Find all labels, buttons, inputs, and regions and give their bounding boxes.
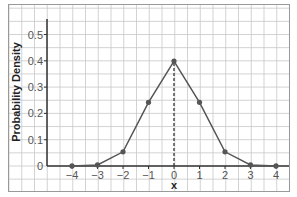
y-tick-label: 0 [37, 160, 43, 172]
data-point [197, 100, 202, 105]
data-point [95, 162, 100, 167]
x-tick-label: −2 [117, 169, 130, 181]
data-point [222, 149, 227, 154]
data-point [273, 163, 278, 168]
x-tick-label: 3 [247, 169, 253, 181]
x-tick-label: 1 [196, 169, 202, 181]
y-tick-label: 0.5 [28, 29, 43, 41]
x-axis-title: x [171, 179, 178, 191]
x-tick-label: −4 [66, 169, 79, 181]
chart: 00.10.20.30.40.5 −4−3−2−101234 Probabili… [0, 0, 297, 197]
y-axis-title: Probability Density [10, 41, 22, 142]
data-point [146, 100, 151, 105]
x-tick-label: −3 [91, 169, 104, 181]
x-tick-label: −1 [142, 169, 155, 181]
y-tick-label: 0.4 [28, 55, 43, 67]
data-point [248, 162, 253, 167]
y-tick-label: 0.2 [28, 107, 43, 119]
y-tick-label: 0.3 [28, 81, 43, 93]
data-point [120, 149, 125, 154]
data-point [171, 58, 176, 63]
y-tick-label: 0.1 [28, 134, 43, 146]
x-tick-label: 4 [273, 169, 279, 181]
data-point [69, 163, 74, 168]
x-tick-label: 2 [222, 169, 228, 181]
